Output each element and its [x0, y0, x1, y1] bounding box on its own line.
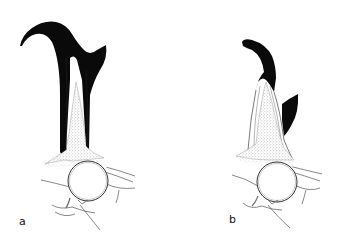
- panel-b-black-spur: [282, 94, 298, 136]
- panel-a-circle: [68, 161, 108, 201]
- panel-b-circle: [257, 162, 297, 202]
- panel-label-b: b: [229, 213, 236, 226]
- panel-a-black-hook: [20, 22, 106, 158]
- panel-label-a: a: [19, 215, 26, 228]
- panel-b-black-hook: [242, 39, 276, 92]
- panel-a-stippled-core: [45, 82, 104, 164]
- anatomical-illustration: [0, 0, 347, 239]
- panel-b-drawing: [232, 39, 322, 228]
- panel-a-drawing: [20, 22, 135, 230]
